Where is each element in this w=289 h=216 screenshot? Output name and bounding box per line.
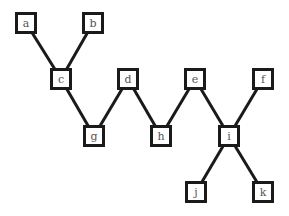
node-c: c — [50, 68, 72, 90]
node-label: c — [58, 74, 64, 85]
node-g: g — [83, 125, 105, 147]
node-label: f — [261, 74, 265, 85]
edges-layer — [0, 0, 289, 216]
node-b: b — [82, 12, 104, 34]
node-label: k — [260, 187, 267, 198]
node-f: f — [252, 68, 274, 90]
node-label: d — [124, 74, 131, 85]
node-label: b — [89, 18, 96, 29]
node-label: e — [192, 74, 199, 85]
node-label: a — [23, 18, 30, 29]
graph-diagram: abcdefghijk — [0, 0, 289, 216]
node-label: h — [157, 131, 164, 142]
node-k: k — [252, 181, 274, 203]
node-a: a — [15, 12, 37, 34]
node-h: h — [150, 125, 172, 147]
node-label: i — [227, 131, 231, 142]
node-label: g — [90, 131, 97, 142]
node-i: i — [218, 125, 240, 147]
node-d: d — [117, 68, 139, 90]
node-label: j — [194, 187, 197, 198]
node-j: j — [185, 181, 207, 203]
node-e: e — [184, 68, 206, 90]
